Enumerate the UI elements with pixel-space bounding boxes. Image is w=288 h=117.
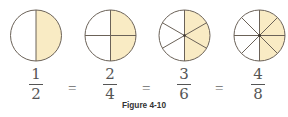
- numerator: 4: [248, 67, 268, 83]
- fraction-three-sixths: 3 6: [174, 67, 194, 103]
- numerator: 1: [26, 67, 46, 83]
- fraction-two-fourths: 2 4: [100, 67, 120, 103]
- equals-sign: =: [215, 80, 223, 97]
- circle-quarters: [85, 10, 136, 61]
- figure-caption: Figure 4-10: [12, 100, 277, 110]
- fraction-one-half: 1 2: [26, 67, 46, 103]
- circle-halves: [11, 10, 62, 61]
- circle-eighths: [234, 10, 285, 61]
- fraction-circles: [0, 0, 288, 75]
- equals-sign: =: [68, 80, 76, 97]
- fraction-four-eighths: 4 8: [248, 67, 268, 103]
- numerator: 3: [174, 67, 194, 83]
- circle-sixths: [159, 10, 210, 61]
- equals-sign: =: [142, 80, 150, 97]
- numerator: 2: [100, 67, 120, 83]
